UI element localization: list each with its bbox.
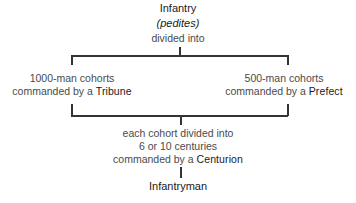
merge-stem-line [180,115,182,125]
leaf-stem-line [180,167,182,178]
root-connector-label: divided into [0,32,356,45]
merge-line1: each cohort divided into [0,127,356,140]
merge-line3: commanded by a Centurion [0,153,356,166]
branch-right-line2: commanded by a Prefect [212,85,356,98]
branch-right-prefix: commanded by a [225,85,308,97]
branch-left: 1000-man cohorts commanded by a Tribune [0,72,144,98]
left-drop-line [71,55,73,65]
right-drop-line [287,55,289,65]
branch-right-line1: 500-man cohorts [212,72,356,85]
top-split-line [71,55,288,57]
branch-left-line1: 1000-man cohorts [0,72,144,85]
branch-right: 500-man cohorts commanded by a Prefect [212,72,356,98]
root-subtitle: (pedites) [0,17,356,30]
merge-commander: Centurion [197,153,243,165]
branch-left-prefix: commanded by a [12,85,95,97]
leaf-title: Infantryman [0,180,356,193]
branch-left-commander: Tribune [96,85,132,97]
branch-left-line2: commanded by a Tribune [0,85,144,98]
branch-right-commander: Prefect [309,85,343,97]
merge-node: each cohort divided into 6 or 10 centuri… [0,127,356,166]
merge-prefix: commanded by a [113,153,196,165]
merge-line2: 6 or 10 centuries [0,140,356,153]
root-title: Infantry [0,2,356,15]
